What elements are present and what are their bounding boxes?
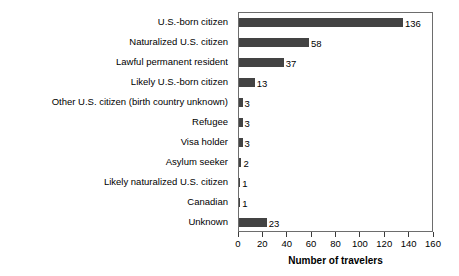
category-label: Canadian [0, 192, 233, 212]
x-axis-tick [359, 232, 360, 237]
bar-value-label: 2 [241, 158, 248, 169]
category-label: Refugee [0, 112, 233, 132]
x-axis: 020406080100120140160 Number of traveler… [238, 232, 433, 276]
x-axis-tick-label: 40 [281, 238, 292, 249]
x-axis-tick [433, 232, 434, 237]
category-label: Lawful permanent resident [0, 52, 233, 72]
x-axis-tick-label: 0 [235, 238, 240, 249]
x-axis-tick-label: 100 [352, 238, 368, 249]
bar-row: 23 [239, 213, 432, 233]
category-label: Visa holder [0, 132, 233, 152]
x-axis-tick-label: 80 [330, 238, 341, 249]
bar-row: 1 [239, 173, 432, 193]
category-label: Unknown [0, 212, 233, 232]
bar-row: 37 [239, 53, 432, 73]
bar-row: 58 [239, 33, 432, 53]
x-axis-tick-labels: 020406080100120140160 [238, 238, 433, 251]
x-axis-tick-label: 120 [376, 238, 392, 249]
x-axis-tick [384, 232, 385, 237]
category-label: U.S.-born citizen [0, 12, 233, 32]
bar-row: 1 [239, 193, 432, 213]
x-axis-tick [238, 232, 239, 237]
bar-row: 3 [239, 93, 432, 113]
bar [239, 218, 267, 227]
category-label: Likely naturalized U.S. citizen [0, 172, 233, 192]
x-axis-ticks [238, 232, 433, 237]
bar-row: 3 [239, 133, 432, 153]
x-axis-tick [335, 232, 336, 237]
x-axis-title: Number of travelers [238, 255, 433, 266]
x-axis-tick [311, 232, 312, 237]
x-axis-tick [286, 232, 287, 237]
category-label: Naturalized U.S. citizen [0, 32, 233, 52]
x-axis-tick [262, 232, 263, 237]
x-axis-tick [408, 232, 409, 237]
category-label: Likely U.S.-born citizen [0, 72, 233, 92]
x-axis-tick-label: 140 [401, 238, 417, 249]
x-axis-tick-label: 160 [425, 238, 441, 249]
bar [239, 58, 284, 67]
bar-value-label: 3 [243, 98, 250, 109]
bar-value-label: 1 [240, 198, 247, 209]
bars-container: 13658371333321123 [239, 13, 432, 231]
bar-chart: U.S.-born citizen Naturalized U.S. citiz… [0, 0, 459, 276]
bar-value-label: 23 [267, 218, 280, 229]
x-axis-tick-label: 60 [306, 238, 317, 249]
bar-row: 3 [239, 113, 432, 133]
bar-value-label: 3 [243, 118, 250, 129]
bar-value-label: 13 [255, 78, 268, 89]
bar [239, 18, 403, 27]
plot-area: 13658371333321123 [238, 12, 433, 232]
category-axis-labels: U.S.-born citizen Naturalized U.S. citiz… [0, 12, 233, 232]
category-label: Asylum seeker [0, 152, 233, 172]
bar-value-label: 58 [309, 38, 322, 49]
bar-value-label: 3 [243, 138, 250, 149]
bar-value-label: 136 [403, 18, 421, 29]
bar-row: 13 [239, 73, 432, 93]
bar-row: 2 [239, 153, 432, 173]
bar-value-label: 1 [240, 178, 247, 189]
bar-value-label: 37 [284, 58, 297, 69]
x-axis-tick-label: 20 [257, 238, 268, 249]
bar [239, 38, 309, 47]
bar [239, 78, 255, 87]
category-label: Other U.S. citizen (birth country unknow… [0, 92, 233, 112]
bar-row: 136 [239, 13, 432, 33]
